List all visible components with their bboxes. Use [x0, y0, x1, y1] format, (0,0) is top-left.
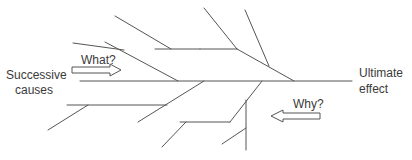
why-arrow-icon	[271, 110, 320, 122]
cause-label-line2: causes	[15, 83, 53, 97]
bone-upper-4	[245, 10, 269, 66]
bone-upper-3	[204, 8, 237, 49]
what-label: What?	[81, 53, 116, 67]
effect-label-line2: effect	[359, 82, 388, 96]
bone-lower-1-sub	[48, 105, 88, 130]
bone-upper-2-branch	[73, 43, 124, 50]
bone-lower-1	[138, 81, 204, 122]
why-label: Why?	[293, 97, 324, 111]
effect-label-line1: Ultimate	[359, 66, 403, 80]
bone-upper-3-lower	[237, 49, 294, 81]
cause-label-line1: Successive	[6, 68, 67, 82]
bone-lower-3-sub	[222, 128, 246, 144]
bone-lower-2-sub	[162, 122, 186, 147]
bone-upper-1	[115, 16, 171, 49]
